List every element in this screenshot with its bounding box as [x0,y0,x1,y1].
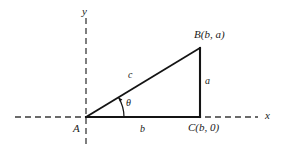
angle-label-theta: θ [126,98,131,108]
x-axis-label: x [265,110,270,121]
y-axis-label: y [82,6,87,17]
side-label-base: b [140,124,145,134]
side-label-vertical: a [205,76,210,86]
vertex-label-a: A [73,123,80,134]
vertex-label-c: C(b, 0) [188,122,219,133]
side-label-hypotenuse: c [128,70,132,80]
vertex-label-b: B(b, a) [194,29,225,40]
geometry-figure: x y A B(b, a) C(b, 0) c a b θ [0,0,283,156]
triangle-hypotenuse-segment [86,48,200,117]
